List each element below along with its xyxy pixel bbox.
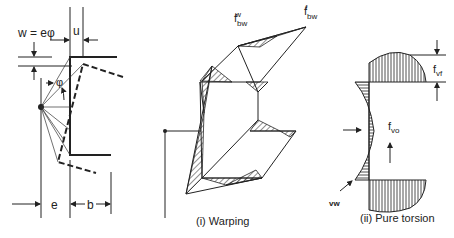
original-channel	[70, 57, 117, 155]
formula-label: w = eφ	[17, 26, 55, 40]
vw-label: vw	[329, 199, 340, 208]
cross-section-diagram: w = eφ u φ e	[12, 7, 123, 218]
fvo-label: fvo	[388, 120, 400, 135]
phi-label: φ	[56, 76, 63, 88]
warping-diagram: fbww fbwf (i) Warping	[163, 3, 318, 227]
fvf-label: fvf	[433, 63, 443, 78]
fbw-w-label: fbww	[234, 10, 248, 28]
torsion-diagram: fvf fvo vw (ii) Pure torsion	[329, 40, 446, 224]
ray	[41, 107, 70, 130]
warping-edge	[202, 92, 258, 178]
b-label: b	[87, 198, 94, 212]
top-flange-shear	[369, 52, 426, 82]
warping-outline	[200, 27, 306, 178]
fbw-f-label: fbwf	[304, 3, 318, 21]
phi-rotation-arrow	[62, 88, 64, 100]
ray	[41, 107, 64, 140]
bottom-flange-shear	[369, 180, 426, 212]
bottom-flange-stress-upper	[250, 120, 280, 131]
u-label: u	[73, 24, 80, 38]
e-label: e	[51, 198, 58, 212]
top-flange-stress-left	[238, 36, 277, 47]
ray	[41, 107, 58, 162]
torsion-caption: (ii) Pure torsion	[360, 212, 435, 224]
web-shear	[355, 82, 374, 180]
rotated-channel	[58, 64, 123, 173]
warping-caption: (i) Warping	[196, 215, 249, 227]
vw-arrow	[340, 181, 352, 191]
diagram-canvas: w = eφ u φ e	[0, 0, 454, 238]
